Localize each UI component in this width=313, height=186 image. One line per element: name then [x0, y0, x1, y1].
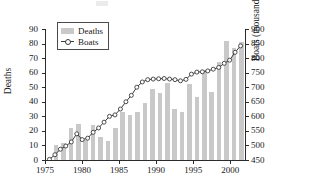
- y-tick-label-right: 750: [251, 68, 277, 77]
- boats-data-point: [222, 61, 226, 65]
- y-tick-label-left: 90: [18, 25, 38, 34]
- x-tick-label: 2000: [213, 166, 247, 175]
- boats-data-point: [108, 114, 112, 118]
- y-tick-label-right: 600: [251, 112, 277, 121]
- y-tick-label-left: 30: [18, 112, 38, 121]
- y-tick-right: [246, 44, 249, 45]
- x-tick-label: 1980: [65, 166, 99, 175]
- boats-data-point: [113, 113, 117, 117]
- boats-data-point: [47, 157, 51, 160]
- top-edge-artifact: [96, 1, 108, 6]
- boats-data-point: [64, 144, 68, 148]
- boats-data-point: [211, 67, 215, 71]
- bar-swatch-icon: [61, 28, 74, 34]
- boats-data-point: [162, 76, 166, 80]
- y-tick-label-right: 900: [251, 25, 277, 34]
- y-tick-right: [246, 58, 249, 59]
- y-tick-right: [246, 73, 249, 74]
- y-tick-right: [246, 87, 249, 88]
- y-tick-label-left: 70: [18, 54, 38, 63]
- y-tick-label-right: 700: [251, 83, 277, 92]
- legend-label-deaths: Deaths: [78, 26, 103, 36]
- y-axis-right-line: [245, 29, 246, 160]
- boats-data-point: [129, 93, 133, 97]
- x-tick: [119, 161, 120, 164]
- y-tick-label-right: 800: [251, 54, 277, 63]
- boats-data-point: [86, 136, 90, 140]
- boats-data-point: [69, 140, 73, 144]
- boats-data-point: [58, 147, 62, 151]
- boats-data-point: [53, 153, 57, 157]
- x-tick: [230, 161, 231, 164]
- legend-item-deaths: Deaths: [61, 25, 103, 36]
- boats-data-point: [184, 77, 188, 81]
- y-tick-right: [246, 102, 249, 103]
- y-tick-right: [246, 160, 249, 161]
- line-circle-icon: [61, 39, 74, 45]
- boats-data-point: [200, 70, 204, 74]
- boats-data-point: [151, 77, 155, 81]
- x-tick-label: 1990: [139, 166, 173, 175]
- boats-data-point: [140, 80, 144, 84]
- x-tick: [45, 161, 46, 164]
- boats-data-point: [239, 44, 243, 48]
- boats-data-point: [157, 77, 161, 81]
- x-tick: [82, 161, 83, 164]
- boats-data-point: [195, 70, 199, 74]
- boats-data-point: [102, 120, 106, 124]
- y-tick-label-right: 650: [251, 97, 277, 106]
- boats-data-point: [80, 138, 84, 142]
- y-tick-label-right: 450: [251, 156, 277, 165]
- boats-data-point: [146, 78, 150, 82]
- y-tick-right: [246, 145, 249, 146]
- y-tick-label-left: 40: [18, 97, 38, 106]
- boats-data-point: [233, 50, 237, 54]
- y-tick-label-left: 10: [18, 141, 38, 150]
- y-axis-left-title: Deaths: [3, 51, 13, 111]
- y-tick-right: [246, 116, 249, 117]
- y-tick-label-left: 50: [18, 83, 38, 92]
- x-tick-label: 1975: [28, 166, 62, 175]
- boats-data-point: [217, 65, 221, 69]
- boats-data-point: [178, 79, 182, 83]
- x-tick: [193, 161, 194, 164]
- y-tick-label-left: 60: [18, 68, 38, 77]
- legend-item-boats: Boats: [61, 36, 103, 47]
- boats-data-point: [91, 130, 95, 134]
- boats-data-point: [173, 78, 177, 82]
- boats-data-point: [124, 100, 128, 104]
- legend-label-boats: Boats: [78, 37, 99, 47]
- y-tick-label-right: 550: [251, 126, 277, 135]
- boats-data-point: [97, 126, 101, 130]
- boats-data-point: [228, 58, 232, 62]
- boats-data-point: [75, 132, 79, 136]
- y-tick-label-left: 20: [18, 126, 38, 135]
- x-tick-label: 1985: [102, 166, 136, 175]
- x-axis-line: [45, 160, 246, 161]
- y-tick-label-right: 500: [251, 141, 277, 150]
- boats-data-point: [135, 85, 139, 89]
- boats-data-point: [168, 77, 172, 81]
- boats-data-point: [206, 69, 210, 73]
- boats-data-point: [118, 107, 122, 111]
- y-tick-label-left: 80: [18, 39, 38, 48]
- chart-legend: Deaths Boats: [57, 22, 109, 50]
- x-tick: [156, 161, 157, 164]
- chart-container: Deaths Boats (thousands) 010203040506070…: [0, 0, 313, 186]
- y-tick-label-right: 850: [251, 39, 277, 48]
- y-tick-right: [246, 131, 249, 132]
- x-tick-label: 1995: [176, 166, 210, 175]
- boats-data-point: [189, 72, 193, 76]
- y-tick-right: [246, 29, 249, 30]
- y-tick-label-left: 0: [18, 156, 38, 165]
